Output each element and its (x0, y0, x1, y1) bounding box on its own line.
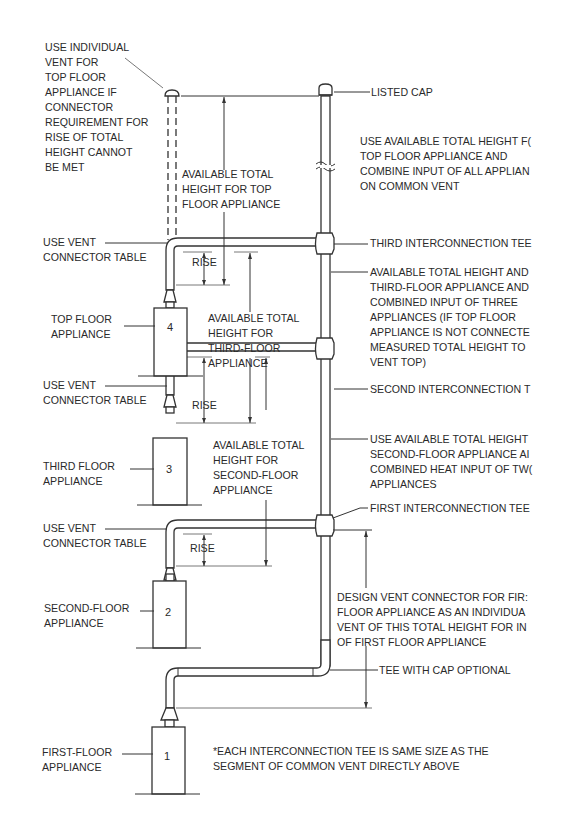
appliance-2-number: 2 (165, 606, 171, 618)
tee-second (316, 338, 335, 359)
svg-text:THIRD FLOOR: THIRD FLOOR (43, 460, 115, 472)
svg-text:TEE WITH CAP OPTIONAL: TEE WITH CAP OPTIONAL (379, 664, 511, 676)
svg-text:APPLIANCE: APPLIANCE (44, 617, 103, 629)
svg-text:CONNECTOR TABLE: CONNECTOR TABLE (43, 537, 147, 549)
svg-text:FIRST-FLOOR: FIRST-FLOOR (42, 746, 112, 758)
listed-cap-label: LISTED CAP (371, 86, 433, 98)
svg-text:CONNECTOR TABLE: CONNECTOR TABLE (43, 394, 147, 406)
svg-text:AVAILABLE TOTAL HEIGHT AND: AVAILABLE TOTAL HEIGHT AND (370, 266, 529, 278)
second-note: USE AVAILABLE TOTAL HEIGHT SECOND-FLOOR … (370, 433, 533, 490)
top-note: USE AVAILABLE TOTAL HEIGHT F( TOP FLOOR … (360, 135, 531, 192)
svg-text:RISE OF TOTAL: RISE OF TOTAL (45, 131, 123, 143)
third-tee-label: THIRD INTERCONNECTION TEE (370, 237, 532, 249)
height-third-label: AVAILABLE TOTAL HEIGHT FOR THIRD-FLOOR A… (208, 312, 300, 369)
tee-third (316, 233, 335, 254)
svg-text:HEIGHT FOR: HEIGHT FOR (213, 454, 278, 466)
rise-label-second: RISE (190, 542, 215, 554)
svg-text:CONNECTOR: CONNECTOR (45, 101, 113, 113)
svg-text:APPLIANCE IS NOT CONNECTE: APPLIANCE IS NOT CONNECTE (370, 326, 530, 338)
appliance-3 (137, 395, 202, 505)
svg-text:USE VENT: USE VENT (43, 522, 97, 534)
svg-text:SECOND-FLOOR: SECOND-FLOOR (44, 602, 130, 614)
svg-text:USE AVAILABLE TOTAL HEIGHT F(: USE AVAILABLE TOTAL HEIGHT F( (360, 135, 531, 147)
svg-text:FLOOR APPLIANCE: FLOOR APPLIANCE (182, 198, 280, 210)
appliance-2-label: SECOND-FLOOR APPLIANCE (44, 602, 130, 629)
svg-text:USE VENT: USE VENT (43, 379, 97, 391)
svg-text:DESIGN VENT CONNECTOR FOR FIR:: DESIGN VENT CONNECTOR FOR FIR: (337, 591, 528, 603)
connector-first-floor (166, 640, 330, 708)
common-vent (316, 96, 335, 666)
connector-table-label-third: USE VENT CONNECTOR TABLE (43, 379, 147, 406)
vent-diagram: 4 3 2 1 (0, 0, 575, 814)
svg-text:VENT FOR: VENT FOR (45, 56, 99, 68)
third-note: AVAILABLE TOTAL HEIGHT AND THIRD-FLOOR A… (370, 266, 530, 368)
leader-lines (105, 58, 378, 754)
appliance-4-label: TOP FLOOR APPLIANCE (51, 313, 112, 340)
svg-text:HEIGHT FOR: HEIGHT FOR (208, 327, 273, 339)
svg-text:COMBINED INPUT OF THREE: COMBINED INPUT OF THREE (370, 296, 518, 308)
svg-text:THIRD-FLOOR: THIRD-FLOOR (208, 342, 281, 354)
svg-text:APPLIANCE IF: APPLIANCE IF (45, 86, 117, 98)
height-top-label: AVAILABLE TOTAL HEIGHT FOR TOP FLOOR APP… (182, 168, 280, 210)
svg-text:HEIGHT FOR TOP: HEIGHT FOR TOP (182, 183, 271, 195)
svg-text:FLOOR APPLIANCE AS AN INDIVIDU: FLOOR APPLIANCE AS AN INDIVIDUA (337, 606, 526, 618)
svg-text:SECOND INTERCONNECTION T: SECOND INTERCONNECTION T (370, 383, 531, 395)
svg-text:REQUIREMENT FOR: REQUIREMENT FOR (45, 116, 149, 128)
appliance-1-label: FIRST-FLOOR APPLIANCE (42, 746, 112, 773)
tee-first (316, 515, 335, 536)
svg-text:USE VENT: USE VENT (43, 236, 97, 248)
svg-text:OF FIRST FLOOR APPLIANCE: OF FIRST FLOOR APPLIANCE (337, 636, 486, 648)
svg-text:APPLIANCE: APPLIANCE (43, 475, 102, 487)
svg-text:APPLIANCE: APPLIANCE (42, 761, 101, 773)
svg-text:AVAILABLE TOTAL: AVAILABLE TOTAL (213, 439, 305, 451)
first-tee-label: FIRST INTERCONNECTION TEE (370, 502, 530, 514)
appliance-4 (138, 290, 203, 376)
rise-label-top: RISE (192, 256, 217, 268)
listed-cap (319, 84, 332, 95)
appliance-3-label: THIRD FLOOR APPLIANCE (43, 460, 115, 487)
connector-second-floor (166, 520, 318, 568)
svg-text:VENT OF THIS TOTAL HEIGHT FOR: VENT OF THIS TOTAL HEIGHT FOR IN (337, 621, 527, 633)
svg-text:TOP FLOOR: TOP FLOOR (45, 71, 106, 83)
svg-text:COMBINE INPUT OF ALL APPLIAN: COMBINE INPUT OF ALL APPLIAN (360, 165, 530, 177)
svg-text:APPLIANCE: APPLIANCE (208, 357, 267, 369)
svg-text:MEASURED TOTAL HEIGHT TO: MEASURED TOTAL HEIGHT TO (370, 341, 526, 353)
svg-text:VENT TOP): VENT TOP) (370, 356, 426, 368)
svg-text:FIRST INTERCONNECTION TEE: FIRST INTERCONNECTION TEE (370, 502, 530, 514)
svg-text:SECOND-FLOOR: SECOND-FLOOR (213, 469, 299, 481)
svg-text:APPLIANCES: APPLIANCES (370, 478, 437, 490)
first-note: DESIGN VENT CONNECTOR FOR FIR: FLOOR APP… (337, 591, 528, 648)
svg-text:COMBINED HEAT INPUT OF TW(: COMBINED HEAT INPUT OF TW( (370, 463, 533, 475)
svg-text:SEGMENT OF COMMON VENT DIRECTL: SEGMENT OF COMMON VENT DIRECTLY ABOVE (213, 760, 459, 772)
svg-text:ON COMMON VENT: ON COMMON VENT (360, 180, 460, 192)
svg-text:BE MET: BE MET (45, 161, 85, 173)
svg-text:TOP FLOOR APPLIANCE AND: TOP FLOOR APPLIANCE AND (360, 150, 508, 162)
svg-text:AVAILABLE TOTAL: AVAILABLE TOTAL (208, 312, 300, 324)
svg-text:THIRD INTERCONNECTION TEE: THIRD INTERCONNECTION TEE (370, 237, 532, 249)
height-second-label: AVAILABLE TOTAL HEIGHT FOR SECOND-FLOOR … (213, 439, 305, 496)
svg-text:APPLIANCE: APPLIANCE (51, 328, 110, 340)
svg-text:SECOND-FLOOR APPLIANCE AI: SECOND-FLOOR APPLIANCE AI (370, 448, 530, 460)
second-tee-label: SECOND INTERCONNECTION T (370, 383, 531, 395)
footnote: *EACH INTERCONNECTION TEE IS SAME SIZE A… (213, 745, 489, 772)
svg-text:AVAILABLE TOTAL: AVAILABLE TOTAL (182, 168, 274, 180)
individual-vent-dashed (165, 90, 179, 240)
svg-text:*EACH INTERCONNECTION TEE IS S: *EACH INTERCONNECTION TEE IS SAME SIZE A… (213, 745, 489, 757)
svg-text:APPLIANCE: APPLIANCE (213, 484, 272, 496)
individual-vent-note: USE INDIVIDUAL VENT FOR TOP FLOOR APPLIA… (45, 41, 149, 173)
svg-text:LISTED CAP: LISTED CAP (371, 86, 433, 98)
connector-table-label-second: USE VENT CONNECTOR TABLE (43, 522, 147, 549)
tee-cap-label: TEE WITH CAP OPTIONAL (379, 664, 511, 676)
svg-text:APPLIANCES (IF TOP FLOOR: APPLIANCES (IF TOP FLOOR (370, 311, 516, 323)
svg-text:USE AVAILABLE TOTAL HEIGHT: USE AVAILABLE TOTAL HEIGHT (370, 433, 529, 445)
svg-text:THIRD-FLOOR APPLIANCE AND: THIRD-FLOOR APPLIANCE AND (370, 281, 529, 293)
appliance-1-number: 1 (164, 750, 170, 762)
connector-top-floor (166, 238, 318, 290)
svg-text:TOP FLOOR: TOP FLOOR (51, 313, 112, 325)
connector-table-label-top: USE VENT CONNECTOR TABLE (43, 236, 147, 263)
appliance-3-number: 3 (166, 463, 172, 475)
rise-label-third: RISE (192, 399, 217, 411)
appliance-4-number: 4 (167, 321, 173, 333)
svg-text:USE INDIVIDUAL: USE INDIVIDUAL (45, 41, 129, 53)
svg-text:CONNECTOR TABLE: CONNECTOR TABLE (43, 251, 147, 263)
